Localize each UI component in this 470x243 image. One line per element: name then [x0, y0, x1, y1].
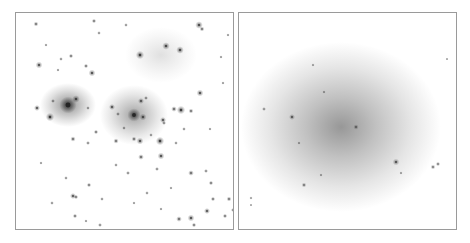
point-source [291, 116, 293, 118]
point-source [179, 49, 181, 51]
point-source [163, 122, 164, 123]
diffuse-emission-image [239, 13, 457, 230]
point-source [432, 166, 433, 167]
xray-image-panel [238, 12, 457, 230]
point-source [140, 156, 142, 158]
point-source [101, 198, 102, 199]
point-source [205, 170, 206, 171]
point-source [228, 198, 229, 199]
point-source [173, 108, 175, 110]
point-source [220, 56, 221, 57]
point-source [395, 161, 397, 163]
point-source [165, 45, 167, 47]
point-source [298, 142, 299, 143]
point-source [139, 54, 141, 56]
point-source [85, 220, 86, 221]
point-source [125, 24, 126, 25]
point-source [250, 197, 251, 198]
point-source [45, 44, 46, 45]
point-source [132, 113, 136, 117]
point-source [175, 142, 176, 143]
point-source [227, 34, 228, 35]
point-source [160, 155, 162, 157]
point-source [85, 65, 86, 66]
point-source [201, 28, 202, 29]
point-source [209, 128, 210, 129]
point-source [145, 97, 146, 98]
optical-field-image [16, 13, 234, 230]
diffuse-emission [241, 42, 441, 212]
point-source [99, 224, 100, 225]
point-source [303, 184, 304, 185]
point-source [437, 163, 438, 164]
point-source [133, 138, 134, 139]
point-source [123, 127, 124, 128]
galaxy-halo [125, 27, 197, 83]
point-source [178, 218, 180, 220]
point-source [65, 177, 66, 178]
point-source [95, 131, 96, 132]
point-source [160, 208, 161, 209]
point-source [87, 107, 88, 108]
point-source [263, 108, 264, 109]
point-source [190, 217, 192, 219]
point-source [210, 182, 211, 183]
point-source [199, 92, 201, 94]
point-source [146, 192, 147, 193]
point-source [75, 196, 76, 197]
point-source [57, 69, 58, 70]
point-source [70, 55, 71, 56]
point-source [60, 58, 61, 59]
point-source [93, 20, 94, 21]
point-source [75, 98, 77, 100]
point-source [142, 116, 144, 118]
point-source [88, 184, 89, 185]
point-source [320, 174, 321, 175]
point-source [159, 140, 161, 142]
point-source [206, 210, 208, 212]
point-source [91, 72, 93, 74]
point-source [156, 168, 157, 169]
point-source [232, 209, 233, 210]
point-source [183, 128, 184, 129]
point-source [222, 82, 223, 83]
point-source [36, 107, 38, 109]
point-source [193, 224, 194, 225]
point-source [51, 202, 52, 203]
point-source [115, 140, 117, 142]
point-source [212, 198, 213, 199]
point-source [40, 162, 41, 163]
point-source [127, 172, 128, 173]
point-source [72, 195, 74, 197]
point-source [87, 142, 88, 143]
point-source [180, 109, 182, 111]
point-source [250, 204, 251, 205]
point-source [170, 187, 171, 188]
point-source [133, 202, 134, 203]
point-source [115, 164, 116, 165]
point-source [162, 119, 164, 121]
point-source [198, 24, 200, 26]
point-source [355, 126, 357, 128]
point-source [190, 110, 191, 111]
point-source [224, 215, 225, 216]
point-source [66, 103, 71, 108]
point-source [38, 64, 40, 66]
point-source [312, 64, 313, 65]
point-source [140, 100, 142, 102]
point-source [111, 106, 113, 108]
point-source [190, 172, 192, 174]
point-source [49, 116, 51, 118]
point-source [117, 113, 118, 114]
point-source [72, 138, 74, 140]
point-source [323, 91, 324, 92]
point-source [150, 134, 151, 135]
point-source [139, 140, 141, 142]
point-source [446, 58, 447, 59]
point-source [74, 215, 75, 216]
optical-image-panel [15, 12, 234, 230]
point-source [52, 100, 53, 101]
point-source [400, 172, 401, 173]
point-source [98, 32, 99, 33]
point-source [35, 23, 36, 24]
